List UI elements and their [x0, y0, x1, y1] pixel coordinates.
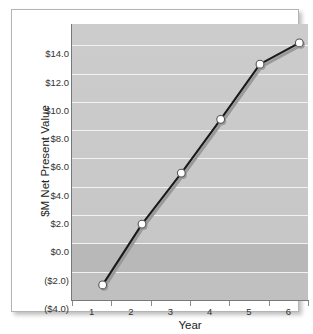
y-axis-tick-label: $14.0 [45, 49, 69, 59]
x-axis-tick [151, 301, 152, 306]
negative-region-band-lower [72, 272, 308, 300]
x-axis-tick-label: 3 [160, 306, 180, 317]
y-axis-tick-label: $4.0 [51, 191, 70, 201]
y-axis-line [71, 24, 72, 301]
y-axis-tick-label: $6.0 [51, 162, 70, 172]
gridline [72, 158, 308, 159]
y-axis-tick-label: $0.0 [51, 247, 70, 257]
negative-region-band [72, 243, 308, 271]
x-axis-tick-label: 6 [278, 306, 298, 317]
x-axis-tick-label: 2 [121, 306, 141, 317]
x-axis-tick-label: 4 [200, 306, 220, 317]
x-axis-tick [269, 301, 270, 306]
y-axis-tick-label: $2.0 [51, 219, 70, 229]
y-axis-tick-label: ($4.0) [44, 304, 69, 314]
x-axis-tick [229, 301, 230, 306]
x-axis-tick-label: 5 [239, 306, 259, 317]
gridline [72, 215, 308, 216]
gridline [72, 272, 308, 273]
x-axis-tick-label: 1 [82, 306, 102, 317]
gridline [72, 102, 308, 103]
plot-area [72, 24, 308, 300]
chart-figure: $14.0$12.0$10.0$8.0$6.0$4.0$2.0$0.0($2.0… [0, 0, 313, 334]
x-axis-title: Year [71, 319, 309, 331]
y-axis-title: $M Net Present Value [39, 66, 51, 256]
x-axis-tick [72, 301, 73, 306]
gridline [72, 243, 308, 244]
gridline [72, 45, 308, 46]
y-axis-tick-label: $8.0 [51, 134, 70, 144]
x-axis-tick [308, 301, 309, 306]
x-axis-tick [190, 301, 191, 306]
gridline [72, 187, 308, 188]
gridline [72, 74, 308, 75]
chart-frame: $14.0$12.0$10.0$8.0$6.0$4.0$2.0$0.0($2.0… [11, 9, 299, 312]
gridline [72, 130, 308, 131]
y-axis-tick-label: ($2.0) [44, 276, 69, 286]
x-axis-tick [111, 301, 112, 306]
